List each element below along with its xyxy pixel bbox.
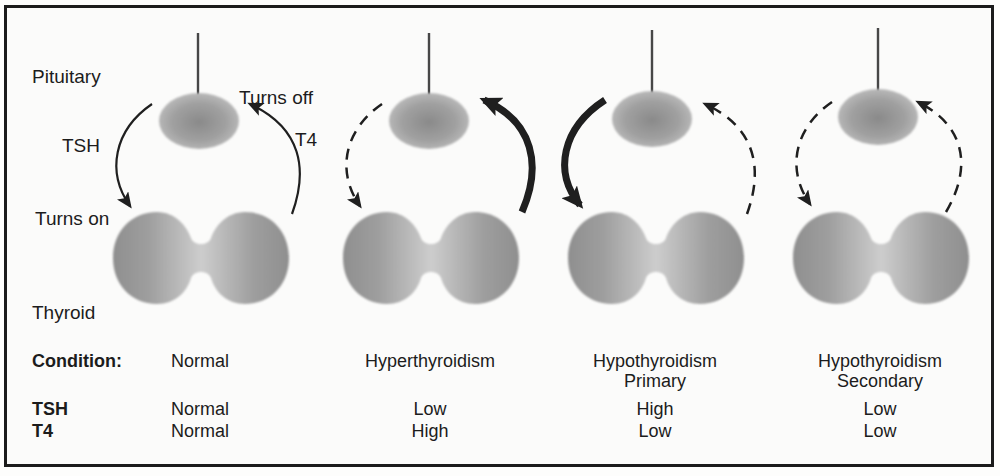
panel-4-condition-subvalue: Secondary [760, 372, 1000, 392]
panel-3-glands [568, 30, 744, 304]
panel-1-pituitary-gland [159, 93, 239, 149]
panel-4-glands [793, 28, 969, 304]
panel-2-t4-value: High [310, 422, 550, 442]
tsh-arrow-label: TSH [62, 136, 100, 156]
panel-4-condition-value: Hypothyroidism [760, 352, 1000, 372]
turns-off-label: Turns off [239, 88, 313, 108]
panel-3-tsh-arrow [565, 100, 605, 205]
pituitary-label: Pituitary [32, 67, 101, 87]
panel-2-condition-value: Hyperthyroidism [310, 352, 550, 372]
panel-1-thyroid-gland [113, 212, 289, 304]
panel-3-thyroid-gland [568, 212, 744, 304]
panel-4-tsh-value: Low [760, 400, 1000, 420]
turns-on-label: Turns on [35, 209, 109, 229]
panel-1-condition-value: Normal [80, 352, 320, 372]
panel-3-t4-arrow [705, 104, 755, 214]
panel-3-tsh-value: High [535, 400, 775, 420]
panel-2-glands [343, 33, 519, 304]
panel-4-tsh-arrow [796, 102, 832, 204]
panel-4-t4-value: Low [760, 422, 1000, 442]
tsh-row-header: TSH [32, 400, 68, 420]
panel-1-tsh-value: Normal [80, 400, 320, 420]
panel-3-pituitary-gland [612, 91, 692, 147]
panel-2-thyroid-gland [343, 212, 519, 304]
panel-2-tsh-arrow [346, 104, 382, 206]
panel-1-t4-arrow [250, 104, 300, 214]
panel-3-condition-subvalue: Primary [535, 372, 775, 392]
panel-2-pituitary-gland [389, 93, 469, 149]
panel-2-tsh-value: Low [310, 400, 550, 420]
t4-row-header: T4 [32, 422, 53, 442]
panel-4-thyroid-gland [793, 212, 969, 304]
panel-2-t4-arrow [484, 100, 532, 212]
panel-3-condition-value: Hypothyroidism [535, 352, 775, 372]
panel-1-glands [113, 33, 289, 304]
thyroid-label: Thyroid [32, 303, 95, 323]
panel-4-pituitary-gland [838, 89, 918, 145]
t4-arrow-label: T4 [295, 130, 317, 150]
panel-1-t4-value: Normal [80, 422, 320, 442]
panel-4-t4-arrow [918, 102, 961, 212]
panel-3-t4-value: Low [535, 422, 775, 442]
panel-1-tsh-arrow [116, 104, 152, 206]
